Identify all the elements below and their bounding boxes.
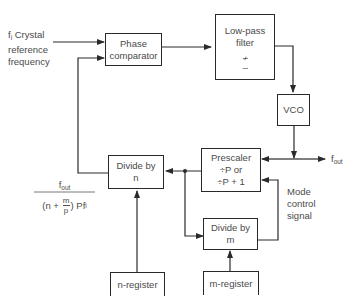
denominator-open: (n + [42,200,61,211]
filter-passband-icon: ∼ [242,64,249,73]
divide-n-line1: Divide by [116,160,155,172]
mode-control-line2: control [287,198,316,210]
numerator-sub: out [61,184,70,191]
m-numerator: m [63,196,70,205]
p-denominator: p [64,206,68,215]
low-pass-line1: Low-pass [225,25,266,37]
m-over-p: m p [63,196,70,215]
phase-comparator-block: Phase comparator [105,33,162,66]
filter-stopband-icon: ≁ [242,54,249,64]
fout-formula: fout (n + m p ) Pfi [34,178,95,215]
divide-n-line2: n [133,172,138,184]
reference-text: reference [8,44,50,56]
crystal-text: Crystal [12,29,44,40]
prescaler-line1: Prescaler [211,152,251,164]
n-register-label: n-register [117,279,157,291]
mode-control-line1: Mode [287,186,316,198]
phase-comparator-line2: comparator [109,50,157,62]
fout-subscript: out [334,158,343,165]
fout-label: fout [331,153,343,168]
formula-numerator: fout [34,178,95,194]
divide-m-line2: m [227,234,235,246]
divide-by-m-block: Divide by m [203,218,258,250]
formula-denominator: (n + m p ) Pfi [34,196,95,215]
vco-block: VCO [277,94,310,126]
denominator-close: ) Pf [71,200,86,211]
mode-control-label: Mode control signal [287,186,316,222]
prescaler-line3: ÷P + 1 [217,176,245,188]
n-register-block: n-register [110,272,165,296]
frequency-text: frequency [8,56,50,68]
prescaler-block: Prescaler ÷P or ÷P + 1 [201,148,261,192]
divide-m-line1: Divide by [211,222,250,234]
low-pass-line2: filter [236,37,254,49]
m-register-label: m-register [210,278,253,290]
mode-control-line3: signal [287,210,316,222]
crystal-reference-label: fi Crystal reference frequency [8,29,50,68]
phase-comparator-line1: Phase [120,38,147,50]
denominator-sub: i [85,202,86,209]
low-pass-filter-block: Low-pass filter ≁ ∼ [215,14,275,80]
divide-by-n-block: Divide by n [108,155,164,189]
connection-wires [0,0,357,307]
prescaler-line2: ÷P or [220,164,242,176]
vco-label: VCO [283,104,304,116]
m-register-block: m-register [203,271,259,295]
